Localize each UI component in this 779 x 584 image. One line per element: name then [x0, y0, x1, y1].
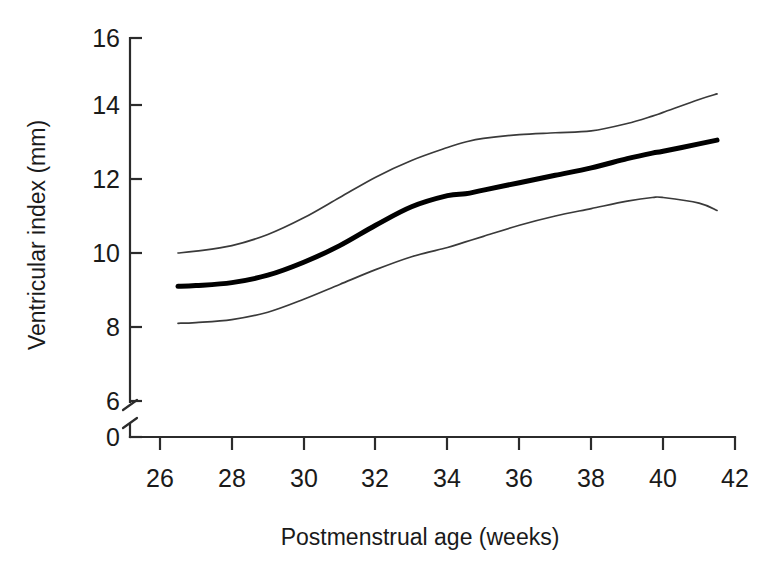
ventricular-index-chart: 16 14 12 10 8 6 0 26 28 30 32 34 36 38 4…: [0, 0, 779, 584]
x-tick-label-40: 40: [649, 464, 677, 492]
x-tick-label-36: 36: [505, 464, 533, 492]
x-tick-label-42: 42: [721, 464, 749, 492]
x-axis-title: Postmenstrual age (weeks): [281, 524, 560, 550]
y-tick-label-14: 14: [92, 91, 120, 119]
x-tick-label-34: 34: [433, 464, 461, 492]
y-tick-label-10: 10: [92, 239, 120, 267]
y-tick-label-0: 0: [106, 423, 120, 451]
x-tick-label-38: 38: [577, 464, 605, 492]
chart-background: [0, 0, 779, 584]
chart-figure: 16 14 12 10 8 6 0 26 28 30 32 34 36 38 4…: [0, 0, 779, 584]
y-axis-title: Ventricular index (mm): [24, 120, 50, 350]
y-tick-label-6: 6: [106, 387, 120, 415]
x-tick-label-26: 26: [146, 464, 174, 492]
y-tick-label-8: 8: [106, 313, 120, 341]
x-tick-label-28: 28: [218, 464, 246, 492]
y-tick-label-16: 16: [92, 24, 120, 52]
x-tick-label-30: 30: [290, 464, 318, 492]
x-tick-label-32: 32: [361, 464, 389, 492]
y-tick-label-12: 12: [92, 165, 120, 193]
